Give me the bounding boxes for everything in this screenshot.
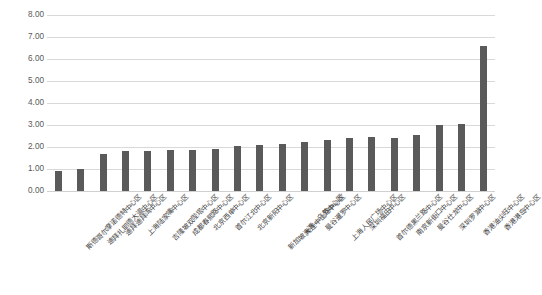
bar — [413, 135, 420, 191]
x-axis-labels: 斯德哥尔摩诺德特中心区迪拜扎耶德大道中心区迪拜迪拜湾中心区上海陆家嘴中心区吉隆坡… — [47, 193, 495, 293]
y-axis-tick-label: 1.00 — [2, 165, 44, 173]
bar — [212, 149, 219, 191]
bar — [256, 145, 263, 191]
bar — [100, 154, 107, 191]
bar — [458, 124, 465, 191]
y-axis-tick-label: 8.00 — [2, 11, 44, 19]
y-axis: 0.001.002.003.004.005.006.007.008.00 — [0, 15, 44, 191]
gridline — [47, 191, 495, 192]
plot-area — [47, 15, 495, 191]
bar — [368, 137, 375, 191]
bar — [167, 150, 174, 191]
y-axis-tick-label: 3.00 — [2, 121, 44, 129]
y-axis-tick-label: 6.00 — [2, 55, 44, 63]
y-axis-tick-label: 7.00 — [2, 33, 44, 41]
bar — [279, 144, 286, 191]
bar — [391, 138, 398, 191]
bar — [144, 151, 151, 191]
bar — [480, 46, 487, 191]
y-axis-tick-label: 5.00 — [2, 77, 44, 85]
y-axis-tick-label: 4.00 — [2, 99, 44, 107]
bar — [122, 151, 129, 191]
bar — [324, 140, 331, 191]
y-axis-tick-label: 0.00 — [2, 187, 44, 195]
bar — [436, 125, 443, 191]
bar — [55, 171, 62, 191]
bar — [234, 146, 241, 191]
bars-layer — [47, 15, 495, 191]
y-axis-tick-label: 2.00 — [2, 143, 44, 151]
bar — [301, 142, 308, 192]
bar — [77, 169, 84, 191]
bar — [346, 138, 353, 191]
bar — [189, 150, 196, 191]
